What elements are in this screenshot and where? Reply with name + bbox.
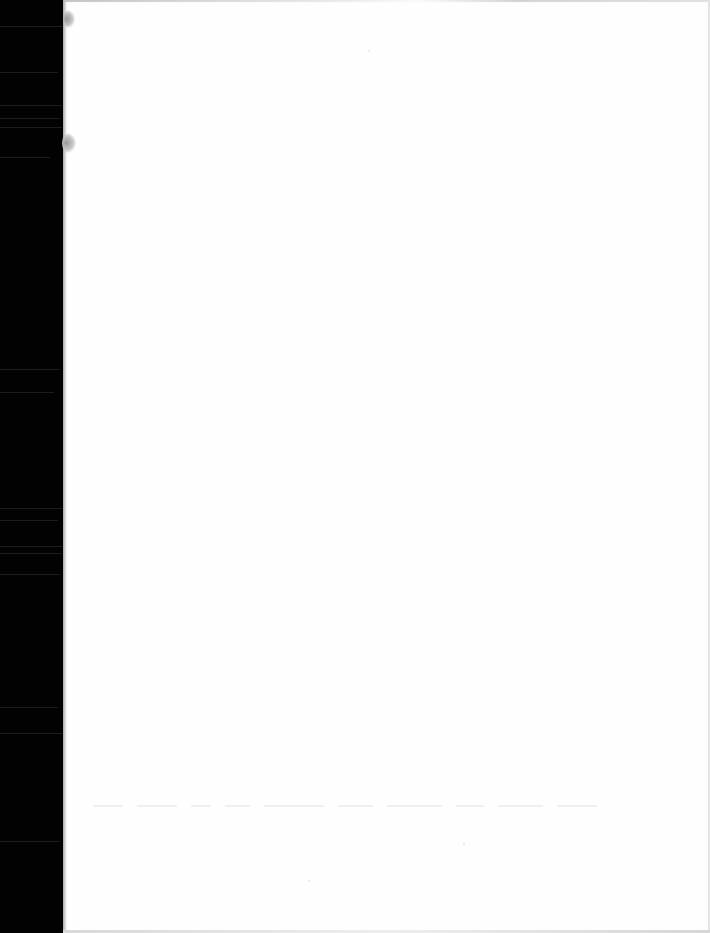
scan-streak — [0, 72, 58, 73]
scan-streak — [0, 520, 58, 521]
scan-streak — [0, 546, 62, 547]
scanner-black-margin — [0, 0, 63, 933]
scan-streak — [0, 105, 62, 106]
scan-streak — [0, 841, 60, 842]
scan-streak — [0, 392, 54, 393]
page-top-edge — [63, 0, 710, 2]
scan-streak — [0, 26, 62, 27]
scan-streak — [0, 508, 62, 509]
bleed-through-text — [93, 805, 653, 808]
scanned-document: Blank white page with black scanner marg… — [0, 0, 710, 933]
scan-speck — [368, 50, 370, 52]
scan-streak — [0, 127, 62, 128]
scan-streak — [0, 157, 50, 158]
scan-streak — [0, 707, 58, 708]
scan-streak — [0, 553, 62, 554]
scan-streak — [0, 118, 60, 119]
scan-speck — [308, 880, 310, 882]
scan-streak — [0, 574, 60, 575]
scan-speck — [463, 843, 465, 845]
punch-hole-shadow — [62, 133, 76, 153]
blank-page: Blank white page with black scanner marg… — [63, 0, 710, 933]
scan-streak — [0, 369, 60, 370]
punch-hole-shadow — [63, 10, 75, 28]
scan-streak — [0, 733, 62, 734]
